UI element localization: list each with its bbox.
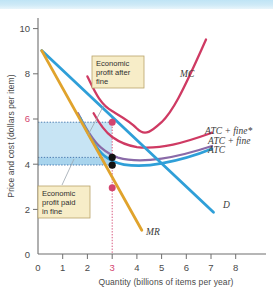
- x-tick-label-7: 7: [208, 262, 213, 273]
- y-axis-title: Price and cost (dollars per item): [6, 74, 16, 197]
- x-tick-labels: 0 1 2 3 4 5 6 7 8: [35, 262, 238, 273]
- economics-chart-figure: 10 8 6 4 2 0 0 1 2 3 4 5 6 7 8 Price and…: [0, 0, 273, 290]
- economic-profit-paid-in-fine-callout: Economic profit paid in fine: [38, 186, 90, 218]
- y-tick-label-4: 4: [25, 159, 30, 170]
- curve-label-demand: D: [222, 200, 230, 210]
- callout-after-fine-line-1: Economic: [96, 59, 130, 68]
- callout-paid-in-fine-line-3: in fine: [42, 207, 62, 216]
- y-tick-label-10: 10: [19, 23, 30, 34]
- marker-atc-point: [109, 162, 116, 169]
- x-tick-label-6: 6: [184, 262, 189, 273]
- y-tick-label-6: 6: [25, 113, 30, 124]
- x-tick-label-3: 3: [110, 262, 115, 273]
- callout-after-fine-line-3: fine: [96, 77, 108, 86]
- callout-paid-in-fine-line-1: Economic: [42, 189, 76, 198]
- curve-label-atc-plus-fine-star: ATC + fine*: [204, 126, 252, 136]
- y-tick-label-2: 2: [25, 204, 30, 215]
- y-tick-labels: 10 8 6 4 2 0: [19, 23, 30, 260]
- y-tick-label-0: 0: [25, 249, 30, 260]
- curve-label-marginal-revenue: MR: [145, 227, 160, 237]
- y-tick-label-8: 8: [25, 68, 30, 79]
- marker-price-point: [109, 119, 116, 126]
- x-tick-label-2: 2: [85, 262, 90, 273]
- y-ticks: [33, 29, 38, 210]
- callout-paid-in-fine-line-2: profit paid: [42, 198, 75, 207]
- callout-after-fine-line-2: profit after: [96, 68, 131, 77]
- marker-atc-plus-fine-point: [109, 154, 116, 161]
- economic-profit-after-fine-callout: Economic profit after fine: [92, 56, 144, 88]
- x-ticks: [63, 254, 236, 259]
- x-axis-title: Quantity (billions of items per year): [98, 277, 233, 287]
- curve-label-atc-plus-fine: ATC + fine: [207, 136, 250, 146]
- x-tick-label-1: 1: [60, 262, 65, 273]
- x-tick-label-0: 0: [35, 262, 40, 273]
- x-tick-label-4: 4: [134, 262, 139, 273]
- x-tick-label-5: 5: [159, 262, 164, 273]
- curve-label-atc: ATC: [207, 145, 226, 155]
- curve-label-mc: MC: [179, 69, 195, 79]
- x-tick-label-8: 8: [233, 262, 238, 273]
- marker-mr-mc-point: [109, 184, 116, 191]
